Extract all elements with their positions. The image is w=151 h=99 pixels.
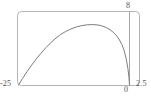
x-axis-min-label: -25 — [0, 80, 11, 88]
data-curve — [19, 25, 130, 85]
plot-frame — [18, 12, 140, 86]
y-axis-max-label: 8 — [126, 2, 130, 10]
plot-canvas — [0, 0, 151, 99]
x-axis-max-label: 2.5 — [136, 80, 147, 88]
plot-figure: 8 -25 0 2.5 — [0, 0, 151, 99]
x-axis-zero-label: 0 — [124, 86, 128, 94]
